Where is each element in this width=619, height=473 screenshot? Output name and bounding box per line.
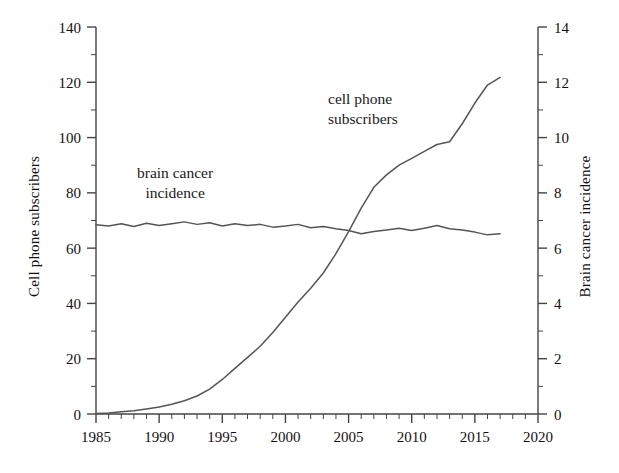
series-label-brain-cancer-line2: incidence bbox=[137, 183, 213, 203]
x-axis-tick-label: 2020 bbox=[523, 429, 553, 445]
series-label-brain-cancer-line1: brain cancer bbox=[137, 163, 213, 183]
y-axis-left-tick-label: 20 bbox=[66, 351, 81, 367]
x-axis-tick-label: 1985 bbox=[81, 429, 111, 445]
series-line-cell-phone bbox=[96, 77, 500, 413]
x-axis-tick-label: 2015 bbox=[460, 429, 490, 445]
y-axis-right-tick-label: 12 bbox=[554, 75, 569, 91]
y-axis-left-tick-label: 80 bbox=[66, 185, 81, 201]
y-axis-right-tick-label: 6 bbox=[554, 241, 562, 257]
y-axis-left-tick-label: 40 bbox=[66, 296, 81, 312]
y-axis-right-tick-label: 4 bbox=[554, 296, 562, 312]
series-label-cell-phone: cell phone subscribers bbox=[328, 89, 398, 130]
x-axis-tick-label: 1990 bbox=[144, 429, 174, 445]
y-axis-left-tick-label: 0 bbox=[74, 407, 82, 423]
x-axis-tick-label: 2000 bbox=[270, 429, 300, 445]
y-axis-right-tick-label: 14 bbox=[554, 20, 570, 36]
tick-label-layer: 1985199019952000200520102015202002040608… bbox=[59, 20, 570, 446]
y-axis-right-tick-label: 0 bbox=[554, 407, 562, 423]
y-axis-right-tick-label: 8 bbox=[554, 185, 562, 201]
series-label-cell-phone-line1: cell phone bbox=[328, 89, 398, 109]
y-axis-left-tick-label: 100 bbox=[59, 130, 82, 146]
chart-figure: 1985199019952000200520102015202002040608… bbox=[0, 0, 619, 473]
x-axis-tick-label: 2005 bbox=[334, 429, 364, 445]
y-axis-right-tick-label: 2 bbox=[554, 351, 562, 367]
x-axis-tick-label: 2010 bbox=[397, 429, 427, 445]
plot-canvas: 1985199019952000200520102015202002040608… bbox=[0, 0, 619, 473]
y-axis-left-title: Cell phone subscribers bbox=[26, 97, 43, 357]
series-layer bbox=[96, 77, 500, 413]
series-label-brain-cancer: brain cancer incidence bbox=[137, 163, 213, 204]
series-line-brain-cancer bbox=[96, 222, 500, 235]
y-axis-right-title: Brain cancer incidence bbox=[577, 97, 594, 357]
x-axis-tick-label: 1995 bbox=[207, 429, 237, 445]
y-axis-right-tick-label: 10 bbox=[554, 130, 569, 146]
y-axis-left-tick-label: 60 bbox=[66, 241, 81, 257]
series-label-cell-phone-line2: subscribers bbox=[328, 109, 398, 129]
y-axis-left-tick-label: 140 bbox=[59, 20, 82, 36]
y-axis-left-tick-label: 120 bbox=[59, 75, 82, 91]
